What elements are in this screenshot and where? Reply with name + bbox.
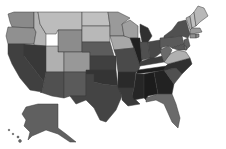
state-HI[interactable] <box>8 129 21 142</box>
state-MI[interactable] <box>140 24 152 42</box>
state-NM[interactable] <box>64 72 86 98</box>
state-ND[interactable] <box>82 12 110 26</box>
state-RI[interactable] <box>196 34 199 38</box>
state-NY[interactable] <box>164 20 190 38</box>
state-WI[interactable] <box>122 20 138 38</box>
state-SD[interactable] <box>82 26 110 42</box>
state-WY[interactable] <box>58 30 82 52</box>
state-ME[interactable] <box>194 6 208 26</box>
state-FL[interactable] <box>146 94 180 128</box>
state-WA[interactable] <box>8 12 34 28</box>
state-AK[interactable] <box>22 104 76 142</box>
state-AR[interactable] <box>118 72 136 88</box>
state-MA[interactable] <box>190 28 202 34</box>
state-KS[interactable] <box>90 56 116 70</box>
state-CO[interactable] <box>64 52 90 72</box>
us-choropleth-map <box>0 0 226 149</box>
state-OR[interactable] <box>6 27 36 44</box>
state-CT[interactable] <box>190 34 196 38</box>
